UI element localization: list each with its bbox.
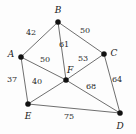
edge-weight-ae: 37 — [7, 76, 17, 84]
weighted-graph-diagram: 42506150533740686475ABCDEF — [0, 0, 136, 134]
labels-overlay: 42506150533740686475ABCDEF — [0, 0, 136, 134]
edge-weight-ef: 40 — [32, 78, 42, 86]
vertex-label-f: F — [67, 66, 73, 75]
edge-weight-cd: 64 — [112, 76, 122, 84]
vertex-label-c: C — [111, 49, 118, 58]
edge-weight-ed: 75 — [64, 113, 74, 121]
edge-weight-cf: 53 — [78, 55, 88, 63]
edge-weight-ab: 42 — [26, 29, 36, 37]
edge-weight-af: 50 — [40, 56, 50, 64]
edge-weight-fd: 68 — [86, 83, 96, 91]
vertex-label-e: E — [25, 112, 32, 121]
edge-weight-bc: 50 — [80, 27, 90, 35]
vertex-label-d: D — [116, 122, 123, 131]
vertex-label-b: B — [55, 6, 62, 15]
edge-weight-bf: 61 — [59, 41, 69, 49]
vertex-label-a: A — [8, 50, 15, 59]
